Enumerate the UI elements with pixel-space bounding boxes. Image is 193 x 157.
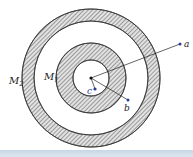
label-b: b [124, 103, 130, 113]
bottom-bar [0, 150, 193, 157]
label-a: a [184, 39, 189, 49]
label-c: c [87, 86, 92, 96]
point-a [179, 43, 182, 46]
concentric-shells-diagram: M2 M1 a b c [0, 0, 193, 157]
center-point [89, 76, 92, 79]
point-b [127, 99, 130, 102]
point-c [93, 87, 96, 90]
